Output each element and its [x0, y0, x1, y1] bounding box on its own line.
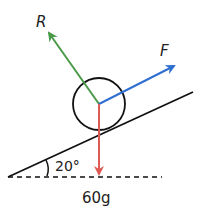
- label-angle: 20°: [55, 158, 80, 174]
- inclined-plane: [8, 92, 193, 177]
- label-F: F: [160, 42, 169, 60]
- normal-reaction-arrow: [49, 33, 99, 104]
- label-weight: 60g: [82, 189, 111, 207]
- angle-arc: [46, 160, 48, 176]
- label-R: R: [36, 13, 46, 31]
- force-diagram: R F 20° 60g: [0, 0, 203, 213]
- applied-force-arrow: [99, 66, 174, 104]
